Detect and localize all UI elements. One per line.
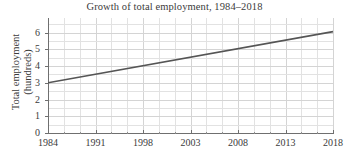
chart-figure: Growth of total employment, 1984–2018 To… [0, 0, 349, 160]
y-tick-label: 5 [20, 44, 40, 54]
data-line-series [48, 18, 334, 134]
x-tick-label: 1991 [76, 137, 116, 148]
y-tick-label: 2 [20, 95, 40, 105]
x-tick-label: 2003 [171, 137, 211, 148]
y-tick-label: 4 [20, 61, 40, 71]
y-tick-label: 3 [20, 78, 40, 88]
chart-title: Growth of total employment, 1984–2018 [0, 1, 349, 12]
x-tick-label: 2013 [266, 137, 306, 148]
x-tick-label: 1998 [123, 137, 163, 148]
x-tick-label: 2018 [313, 137, 349, 148]
y-tick-label: 1 [20, 111, 40, 121]
x-tick-label: 2008 [218, 137, 258, 148]
x-tick-label: 1984 [28, 137, 68, 148]
y-tick-label: 6 [20, 28, 40, 38]
